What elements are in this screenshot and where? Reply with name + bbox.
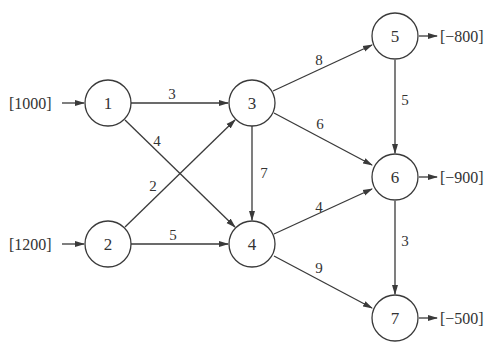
edge-cost-5-6: 5 — [401, 92, 409, 108]
node-5: 5 — [372, 13, 418, 59]
demand-label-7: [−500] — [440, 310, 484, 327]
edge-cost-1-4: 4 — [153, 133, 161, 149]
node-4: 4 — [229, 221, 275, 267]
node-3: 3 — [229, 80, 275, 126]
node-2: 2 — [85, 221, 131, 267]
node-label-2: 2 — [104, 235, 113, 254]
edge-cost-3-6: 6 — [316, 116, 324, 132]
supply-label-2: [1200] — [9, 236, 52, 253]
edge-cost-3-5: 8 — [315, 52, 323, 68]
edge-cost-1-3: 3 — [168, 86, 176, 102]
edge-cost-3-4: 7 — [260, 165, 268, 181]
node-label-6: 6 — [391, 168, 400, 187]
network-diagram: 3 4 2 5 8 6 7 4 9 5 3 1 2 3 4 5 6 7 [100… — [0, 0, 501, 348]
node-label-3: 3 — [248, 94, 257, 113]
edge-cost-2-4: 5 — [169, 227, 177, 243]
edge-cost-2-3: 2 — [149, 178, 157, 194]
edge-cost-4-6: 4 — [315, 199, 323, 215]
node-label-1: 1 — [104, 94, 113, 113]
node-6: 6 — [372, 154, 418, 200]
node-1: 1 — [85, 80, 131, 126]
node-label-4: 4 — [248, 235, 257, 254]
node-7: 7 — [372, 295, 418, 341]
supply-label-1: [1000] — [9, 95, 52, 112]
demand-label-5: [−800] — [440, 28, 484, 45]
edge-4-6 — [274, 189, 372, 234]
edge-cost-4-7: 9 — [315, 260, 323, 276]
node-label-5: 5 — [391, 27, 400, 46]
edge-cost-6-7: 3 — [401, 233, 409, 249]
edge-4-7 — [274, 256, 372, 308]
demand-label-6: [−900] — [440, 169, 484, 186]
node-label-7: 7 — [391, 309, 400, 328]
